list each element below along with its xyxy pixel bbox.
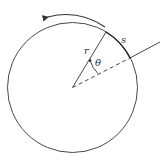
arc-length-label: s bbox=[121, 34, 126, 45]
circle-diagram: r θ s bbox=[0, 0, 161, 161]
angle-label: θ bbox=[95, 57, 101, 68]
radius-label: r bbox=[84, 45, 90, 56]
arc-length-segment bbox=[106, 32, 130, 58]
rotation-arrow-icon bbox=[48, 15, 105, 27]
reference-line-extension bbox=[130, 42, 160, 58]
